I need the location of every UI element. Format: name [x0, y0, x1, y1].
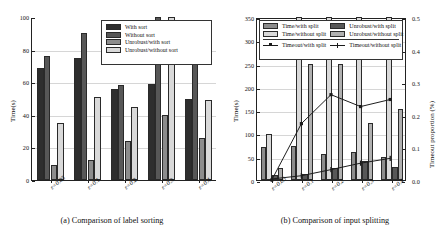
panel-b-caption: (b) Comparison of input splitting	[223, 216, 447, 225]
y-tick-label: 350	[231, 16, 254, 22]
y-tick-label: 200	[231, 86, 254, 92]
legend-bar-grid: Time/with splitUnrobust/with splitTime/w…	[263, 23, 399, 38]
y2-tick-label: 0.2	[412, 114, 434, 120]
bar	[94, 97, 101, 180]
legend-swatch	[106, 32, 121, 38]
y-tick	[257, 135, 260, 136]
legend-label: Unrobust/without sort	[125, 47, 178, 53]
legend-label: Timeout/without split	[349, 42, 401, 48]
bar	[338, 64, 344, 180]
y-tick-label: 100	[6, 15, 29, 21]
panel-b-y2-axis-title: Timeout proportion (%)	[428, 101, 436, 168]
y-tick-label: 0	[231, 179, 254, 185]
bar	[57, 123, 64, 180]
legend-swatch	[330, 31, 345, 37]
legend-line-swatch	[330, 42, 345, 48]
legend-line-item-0: Timeout/with split	[263, 42, 326, 48]
y-tick	[32, 51, 35, 52]
legend-label: Without sort	[125, 32, 155, 38]
y-tick-label: 150	[231, 109, 254, 115]
y-tick	[32, 116, 35, 117]
y-tick-label: 80	[6, 48, 29, 54]
y-tick	[257, 66, 260, 67]
legend-item-3: Unrobust/without split	[330, 31, 403, 37]
bar	[148, 84, 155, 180]
y-tick	[32, 18, 35, 19]
y-tick-label: 40	[6, 113, 29, 119]
bar	[125, 141, 132, 180]
legend-item-0: With sort	[106, 24, 207, 30]
bar	[81, 33, 88, 180]
bar	[37, 68, 44, 180]
panel-b-legend: Time/with splitUnrobust/with splitTime/w…	[259, 20, 403, 60]
bar	[192, 64, 199, 180]
bar	[266, 134, 272, 180]
panel-a: Time(s) 020406080100ε=0.05ε=0.1ε=0.2ε=0.…	[0, 0, 224, 227]
y-tick	[32, 83, 35, 84]
y-tick-label: 300	[231, 39, 254, 45]
legend-label: Time/without split	[282, 31, 326, 37]
bar	[368, 123, 374, 180]
bar	[74, 58, 81, 180]
y-tick-label: 100	[231, 132, 254, 138]
bar	[185, 99, 192, 181]
legend-label: Unrobust/with split	[349, 23, 396, 29]
legend-line-item-1: Timeout/without split	[330, 42, 401, 48]
y-tick-label: 0	[6, 178, 29, 184]
legend-label: With sort	[125, 24, 147, 30]
legend-swatch	[263, 23, 278, 29]
legend-swatch	[106, 39, 121, 45]
y-tick	[257, 112, 260, 113]
legend-line-grid: Timeout/with splitTimeout/without split	[263, 42, 399, 48]
legend-item-3: Unrobust/without sort	[106, 47, 207, 53]
legend-item-1: Time/without split	[263, 31, 326, 37]
bar	[205, 100, 212, 180]
y-tick	[257, 89, 260, 90]
y-tick-label: 20	[6, 145, 29, 151]
y-tick-label: 60	[6, 80, 29, 86]
legend-item-0: Time/with split	[263, 23, 326, 29]
legend-item-1: Without sort	[106, 32, 207, 38]
figure-container: Time(s) 020406080100ε=0.05ε=0.1ε=0.2ε=0.…	[0, 0, 447, 227]
bar	[308, 64, 314, 180]
y2-tick-label: 0.3	[412, 81, 434, 87]
bar	[118, 85, 125, 180]
legend-swatch	[106, 24, 121, 30]
legend-swatch	[330, 23, 345, 29]
y2-tick-label: 0.5	[412, 16, 434, 22]
bar	[199, 138, 206, 180]
y2-tick-label: 0.4	[412, 49, 434, 55]
legend-swatch	[263, 31, 278, 37]
bar	[131, 107, 138, 180]
legend-label: Timeout/with split	[282, 42, 326, 48]
panel-b: Time(s) Timeout proportion (%) 050100150…	[223, 0, 447, 227]
legend-swatch	[106, 47, 121, 53]
legend-label: Unrobust/without split	[349, 31, 403, 37]
gridline	[32, 83, 216, 84]
y-tick-label: 50	[231, 156, 254, 162]
legend-label: Time/with split	[282, 23, 319, 29]
bar	[44, 56, 51, 180]
y-tick	[32, 181, 35, 182]
bar	[111, 89, 118, 180]
y-tick-label: 250	[231, 63, 254, 69]
y2-tick-label: 0.0	[412, 179, 434, 185]
y2-tick-label: 0.1	[412, 146, 434, 152]
y-tick	[257, 159, 260, 160]
legend-label: Unrobust/with sort	[125, 39, 170, 45]
panel-a-caption: (a) Comparison of label sorting	[0, 216, 224, 225]
legend-item-2: Unrobust/with sort	[106, 39, 207, 45]
panel-a-legend: With sortWithout sortUnrobust/with sortU…	[101, 20, 212, 65]
bar	[162, 115, 169, 180]
y-tick	[32, 148, 35, 149]
y2-tick	[402, 84, 405, 85]
legend-line-swatch	[263, 42, 278, 48]
legend-divider	[263, 39, 399, 40]
y-tick	[257, 182, 260, 183]
bar	[398, 109, 404, 180]
legend-item-2: Unrobust/with split	[330, 23, 403, 29]
